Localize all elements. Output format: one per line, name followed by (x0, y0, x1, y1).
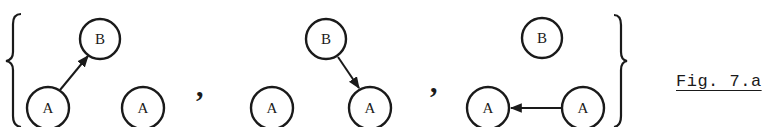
node-a-left: A (251, 87, 293, 127)
node-b: B (522, 18, 562, 58)
node-a-right: A (122, 87, 164, 127)
svg-text:A: A (483, 100, 494, 116)
graph-3: B A A (467, 18, 604, 127)
svg-text:A: A (43, 100, 54, 116)
node-a-left: A (27, 87, 69, 127)
svg-text:B: B (321, 31, 331, 47)
svg-text:B: B (537, 30, 547, 46)
right-brace (614, 15, 627, 127)
node-a-right: A (349, 87, 391, 127)
node-a-left: A (467, 87, 509, 127)
edge-a-to-b (60, 56, 88, 90)
figure-canvas: B A A , B A A , B (0, 0, 773, 127)
figure-caption: Fig. 7.a (676, 72, 762, 91)
left-brace (6, 14, 21, 127)
edge-b-to-a (338, 57, 359, 88)
node-a-right: A (562, 87, 604, 127)
svg-text:A: A (267, 100, 278, 116)
node-b: B (80, 19, 120, 59)
node-b: B (306, 19, 346, 59)
svg-text:A: A (138, 100, 149, 116)
separator-comma-1: , (196, 69, 204, 102)
graph-2: B A A (251, 19, 391, 127)
svg-text:B: B (95, 31, 105, 47)
svg-text:A: A (578, 100, 589, 116)
separator-comma-2: , (430, 65, 438, 98)
svg-text:A: A (365, 100, 376, 116)
graph-1: B A A (27, 19, 164, 127)
